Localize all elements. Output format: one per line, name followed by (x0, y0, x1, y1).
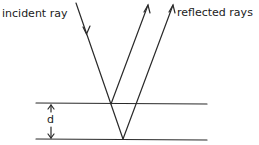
top-surface-line (36, 103, 207, 104)
reflected-rays-label: reflected rays (177, 7, 253, 18)
incident-ray (76, 3, 123, 139)
thickness-label: d (47, 114, 54, 125)
bottom-surface-line (36, 139, 207, 140)
thin-film-diagram: incident ray reflected rays d (0, 0, 259, 145)
reflected-ray-2 (123, 5, 173, 139)
reflected-ray-1 (111, 5, 148, 104)
incident-ray-label: incident ray (2, 8, 67, 19)
diagram-drawing (0, 0, 259, 145)
